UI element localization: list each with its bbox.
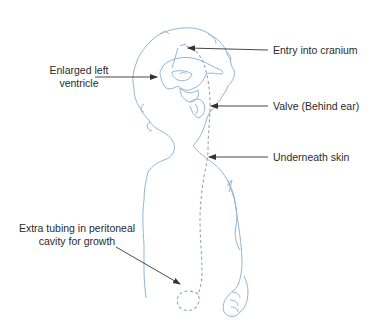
- label-tubing-line2: cavity for growth: [16, 235, 138, 248]
- label-ventricle-line1: Enlarged left: [44, 64, 114, 77]
- shunt-tubing: [177, 46, 210, 310]
- label-underneath-skin: Underneath skin: [273, 151, 349, 164]
- label-extra-tubing: Extra tubing in peritoneal cavity for gr…: [16, 222, 138, 248]
- head-outline: [133, 28, 248, 317]
- label-tubing-line1: Extra tubing in peritoneal: [16, 222, 138, 235]
- label-entry-into-cranium: Entry into cranium: [273, 44, 358, 57]
- label-enlarged-left-ventricle: Enlarged left ventricle: [44, 64, 114, 90]
- arrow-tubing: [116, 247, 180, 284]
- arrow-entry: [188, 48, 268, 50]
- label-ventricle-line2: ventricle: [44, 77, 114, 90]
- label-arrows: [95, 48, 268, 284]
- label-valve-behind-ear: Valve (Behind ear): [273, 100, 359, 113]
- shunt-diagram: Entry into cranium Enlarged left ventric…: [0, 0, 371, 331]
- ventricle-shapes: [160, 44, 223, 118]
